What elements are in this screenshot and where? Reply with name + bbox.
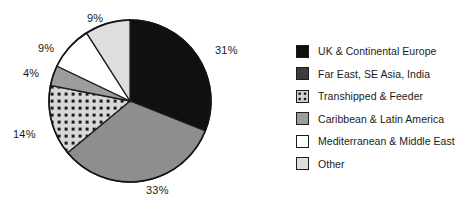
legend-item-uk-continental-europe: UK & Continental Europe bbox=[296, 40, 471, 63]
black-swatch-icon bbox=[296, 45, 309, 58]
legend-item-caribbean-latin-america: Caribbean & Latin America bbox=[296, 108, 471, 131]
dotted-swatch-icon bbox=[296, 90, 309, 103]
legend-label: Mediterranean & Middle East bbox=[318, 135, 455, 147]
medium-gray-swatch-icon bbox=[296, 112, 309, 125]
dark-gray-swatch-icon bbox=[296, 67, 309, 80]
legend-label: Transhipped & Feeder bbox=[318, 90, 423, 102]
legend-label: Far East, SE Asia, India bbox=[318, 68, 430, 80]
legend-item-mediterranean-middle-east: Mediterranean & Middle East bbox=[296, 130, 471, 153]
legend-item-far-east-se-asia-india: Far East, SE Asia, India bbox=[296, 63, 471, 86]
white-swatch-icon bbox=[296, 135, 309, 148]
chart-legend: UK & Continental Europe Far East, SE Asi… bbox=[296, 40, 471, 175]
legend-item-other: Other bbox=[296, 153, 471, 176]
pie-label-14-percent: 14% bbox=[13, 128, 36, 140]
pie-label-9-percent-mediterranean: 9% bbox=[38, 42, 54, 54]
legend-label: UK & Continental Europe bbox=[318, 45, 436, 57]
pie-chart-figure: 31% 33% 14% 4% 9% 9% UK & Continental Eu… bbox=[0, 0, 473, 209]
pie-label-33-percent: 33% bbox=[146, 184, 169, 196]
pie-label-31-percent: 31% bbox=[215, 44, 238, 56]
light-gray-swatch-icon bbox=[296, 157, 309, 170]
legend-item-transhipped-feeder: Transhipped & Feeder bbox=[296, 85, 471, 108]
legend-label: Other bbox=[318, 158, 345, 170]
legend-label: Caribbean & Latin America bbox=[318, 113, 444, 125]
pie-label-4-percent: 4% bbox=[23, 67, 39, 79]
pie-label-9-percent-other: 9% bbox=[87, 12, 103, 24]
